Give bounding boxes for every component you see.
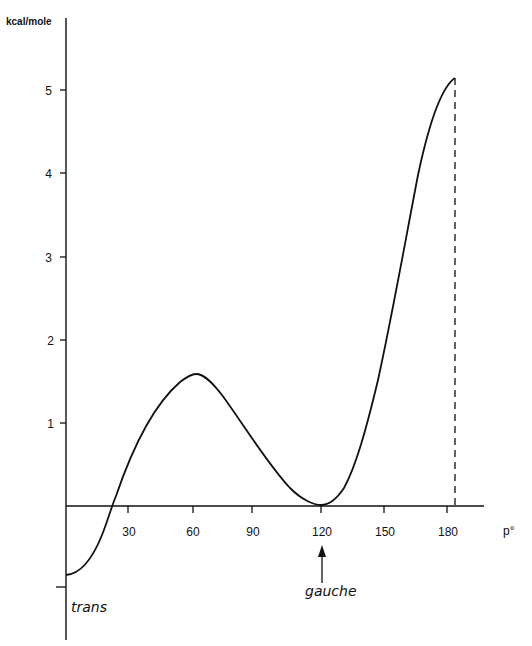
svg-text:4: 4: [45, 167, 52, 181]
x-axis-label: p°: [503, 524, 515, 538]
y-axis-label: kcal/mole: [6, 16, 52, 27]
trans-label: trans: [71, 599, 107, 615]
energy-chart: 5 4 3 2 1 kcal/mole 30 60 90 120 150 180…: [0, 0, 532, 646]
svg-text:150: 150: [375, 525, 395, 539]
gauche-label: gauche: [305, 583, 357, 599]
svg-text:5: 5: [45, 84, 52, 98]
svg-text:120: 120: [312, 525, 332, 539]
svg-text:60: 60: [186, 525, 200, 539]
x-ticks: [128, 506, 447, 513]
svg-text:1: 1: [47, 417, 54, 431]
y-ticks: [56, 90, 66, 587]
energy-curve: [66, 78, 455, 575]
x-tick-labels: 30 60 90 120 150 180: [122, 525, 458, 539]
svg-text:180: 180: [438, 525, 458, 539]
svg-text:2: 2: [47, 334, 54, 348]
svg-text:30: 30: [122, 525, 136, 539]
gauche-arrow-icon: [318, 545, 326, 583]
y-tick-labels: 5 4 3 2 1: [45, 84, 54, 431]
svg-text:90: 90: [246, 525, 260, 539]
svg-text:3: 3: [45, 251, 52, 265]
